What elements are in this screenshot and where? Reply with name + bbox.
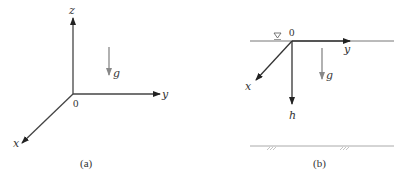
coordinate-diagram: z y x 0 g (a) 0 y x h g (b) (0, 0, 401, 179)
origin-label: 0 (73, 97, 79, 109)
panel-a: z y x 0 g (a) (13, 4, 169, 170)
caption-b: (b) (313, 157, 326, 170)
x-axis (256, 41, 292, 80)
x-axis-label: x (13, 137, 20, 150)
h-axis-label: h (289, 109, 296, 122)
x-axis (22, 94, 73, 143)
panel-b: 0 y x h g (b) (245, 26, 394, 170)
y-axis-label: y (343, 43, 351, 56)
bed-hatch-left (267, 147, 276, 150)
z-axis-label: z (68, 4, 75, 17)
gravity-label: g (326, 69, 333, 82)
y-axis-label: y (161, 88, 169, 101)
gravity-label: g (113, 67, 120, 80)
caption-a: (a) (80, 157, 93, 170)
bed-hatch-right (340, 147, 349, 150)
origin-label: 0 (289, 26, 295, 38)
water-surface-icon (274, 33, 281, 40)
x-axis-label: x (245, 80, 252, 93)
